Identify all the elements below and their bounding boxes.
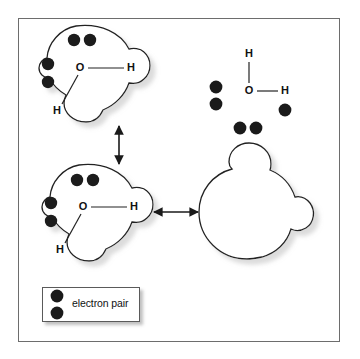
figure-canvas: O H H O H H H O H electron pair (0, 0, 360, 359)
legend-label: electron pair (72, 297, 128, 309)
electron-dot (51, 290, 64, 303)
electron-dot (51, 307, 64, 320)
legend-dots-layer (0, 0, 360, 359)
